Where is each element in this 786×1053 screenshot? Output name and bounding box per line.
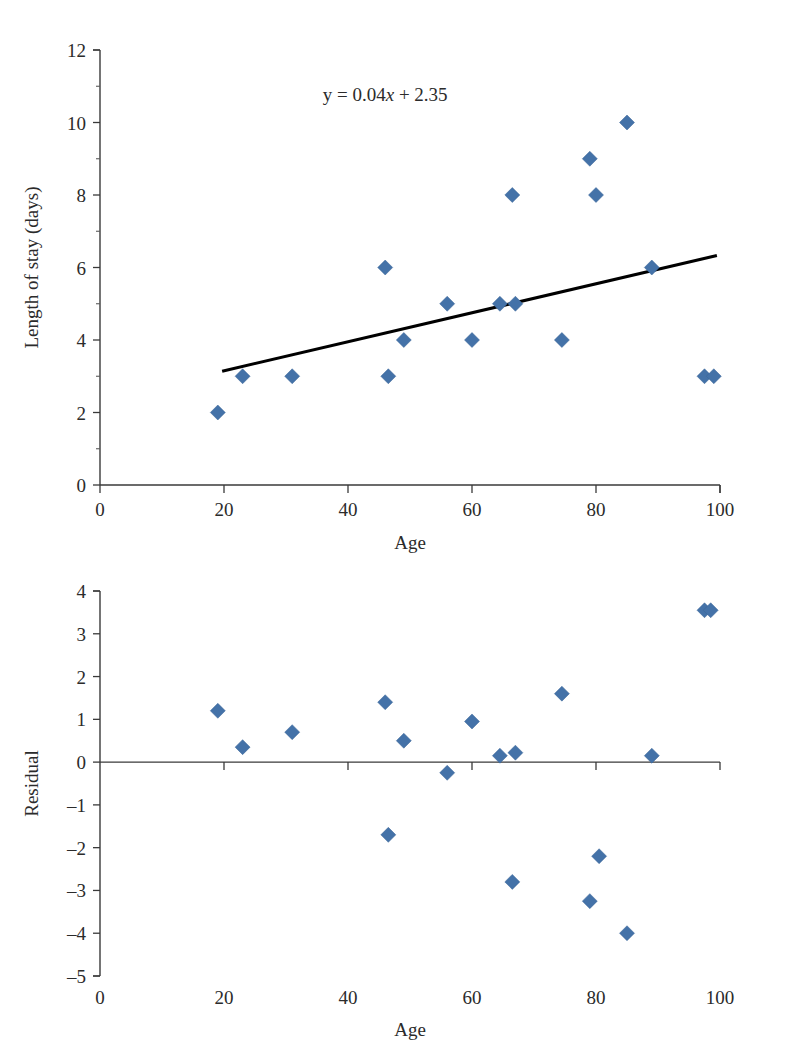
chart-residual-vs-age: 43210–1–2–3–4–5020406080100AgeResidual: [0, 556, 786, 1053]
scatter-plot-bottom: 43210–1–2–3–4–5020406080100AgeResidual: [0, 556, 786, 1053]
data-point: [554, 333, 569, 348]
y-tick-label: 2: [77, 403, 87, 424]
y-tick-label: –2: [66, 838, 86, 859]
data-point: [620, 926, 635, 941]
y-tick-label: –5: [66, 966, 86, 987]
y-tick-label: 6: [77, 258, 87, 279]
data-point: [465, 333, 480, 348]
x-tick-label: 0: [95, 499, 105, 520]
x-tick-label: 100: [706, 987, 735, 1008]
data-point: [440, 765, 455, 780]
data-point: [508, 296, 523, 311]
data-point: [396, 733, 411, 748]
data-point: [505, 874, 520, 889]
data-point: [582, 151, 597, 166]
data-point: [396, 333, 411, 348]
x-tick-label: 0: [95, 987, 105, 1008]
equation-part: + 2.35: [394, 84, 447, 105]
data-point: [285, 369, 300, 384]
data-point: [706, 369, 721, 384]
data-point-group: [210, 603, 718, 941]
y-tick-label: –4: [66, 923, 87, 944]
y-tick-label: 3: [77, 624, 87, 645]
data-point: [210, 405, 225, 420]
y-tick-label: 0: [77, 752, 87, 773]
x-axis-title: Age: [394, 532, 426, 553]
data-point: [378, 260, 393, 275]
data-point: [440, 296, 455, 311]
x-tick-label: 80: [587, 987, 606, 1008]
y-tick-label: –3: [66, 880, 86, 901]
data-point: [381, 827, 396, 842]
y-tick-label: 2: [77, 667, 87, 688]
y-tick-label: 4: [77, 330, 87, 351]
y-tick-label: 4: [77, 581, 87, 602]
data-point: [644, 748, 659, 763]
chart-length-of-stay-vs-age: 024681012020406080100AgeLength of stay (…: [0, 0, 786, 556]
y-axis-title: Length of stay (days): [21, 187, 43, 349]
x-tick-label: 20: [215, 499, 234, 520]
data-point: [378, 695, 393, 710]
scatter-plot-top: 024681012020406080100AgeLength of stay (…: [0, 0, 786, 556]
data-point: [620, 115, 635, 130]
x-tick-label: 40: [339, 987, 358, 1008]
equation-part: y = 0.04: [323, 84, 386, 105]
y-tick-label: 1: [77, 709, 87, 730]
y-tick-label: 8: [77, 185, 87, 206]
data-point: [381, 369, 396, 384]
data-point: [235, 369, 250, 384]
y-tick-label: 0: [77, 475, 87, 496]
x-tick-label: 60: [463, 987, 482, 1008]
data-point: [554, 686, 569, 701]
data-point-group: [210, 115, 721, 420]
data-point: [465, 714, 480, 729]
data-point: [505, 188, 520, 203]
y-tick-label: 12: [67, 40, 86, 61]
x-axis-title: Age: [394, 1019, 426, 1040]
figure-container: 024681012020406080100AgeLength of stay (…: [0, 0, 786, 1053]
x-tick-label: 100: [706, 499, 735, 520]
data-point: [582, 894, 597, 909]
data-point: [285, 725, 300, 740]
data-point: [210, 703, 225, 718]
regression-trendline: [222, 256, 717, 372]
y-tick-label: 10: [67, 113, 86, 134]
x-tick-label: 60: [463, 499, 482, 520]
regression-equation: y = 0.04x + 2.35: [323, 84, 448, 105]
data-point: [492, 748, 507, 763]
y-tick-label: –1: [66, 795, 86, 816]
data-point: [235, 740, 250, 755]
data-point: [508, 745, 523, 760]
x-tick-label: 20: [215, 987, 234, 1008]
x-tick-label: 80: [587, 499, 606, 520]
x-tick-label: 40: [339, 499, 358, 520]
data-point: [589, 188, 604, 203]
data-point: [592, 849, 607, 864]
y-axis-title: Residual: [21, 750, 42, 817]
